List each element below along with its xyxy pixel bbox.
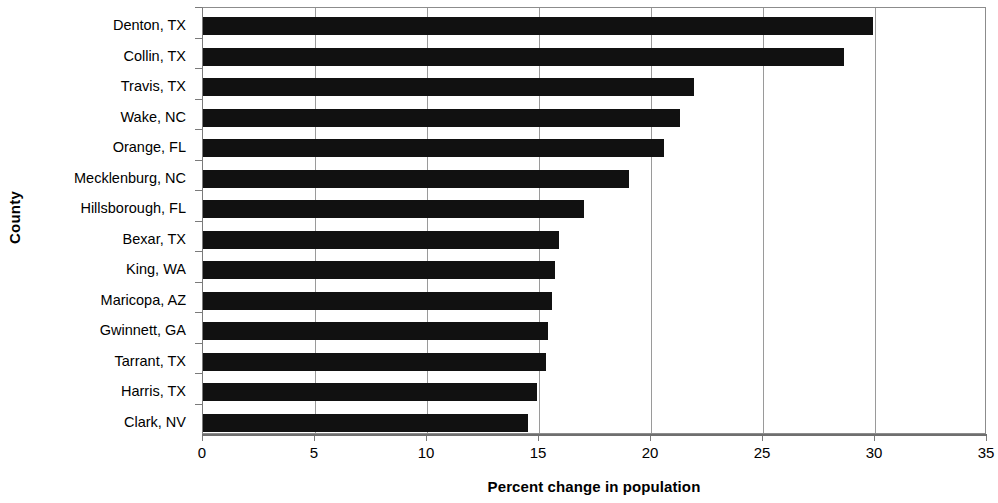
category-label: Harris, TX: [121, 381, 186, 401]
x-axis-title: Percent change in population: [202, 478, 986, 495]
bar: [203, 109, 680, 127]
category-label: Collin, TX: [123, 46, 186, 66]
plot-area: [202, 7, 986, 434]
y-axis-title: County: [0, 0, 28, 434]
category-label: Hillsborough, FL: [80, 198, 186, 218]
category-label: Tarrant, TX: [115, 351, 186, 371]
y-axis-title-text: County: [6, 191, 23, 244]
bar: [203, 383, 537, 401]
bar: [203, 261, 555, 279]
bar: [203, 414, 528, 432]
category-label: Orange, FL: [113, 137, 186, 157]
category-label: Mecklenburg, NC: [74, 168, 186, 188]
y-axis-tick: [195, 343, 202, 344]
bar-chart: County Denton, TXCollin, TXTravis, TXWak…: [0, 0, 998, 503]
category-label: Clark, NV: [124, 412, 186, 432]
bar: [203, 17, 873, 35]
gridline-x-20: [651, 8, 652, 433]
bar: [203, 48, 844, 66]
x-axis-tick-label: 0: [180, 444, 224, 461]
category-label: Maricopa, AZ: [101, 290, 186, 310]
y-axis-tick: [195, 68, 202, 69]
bar: [203, 139, 664, 157]
bar: [203, 353, 546, 371]
x-axis-tick-label: 15: [516, 444, 560, 461]
category-label: Bexar, TX: [123, 229, 186, 249]
y-axis-tick: [195, 7, 202, 8]
y-axis-tick: [195, 282, 202, 283]
y-axis-tick: [195, 99, 202, 100]
y-axis-tick: [195, 404, 202, 405]
category-label: Denton, TX: [113, 15, 186, 35]
bar: [203, 292, 552, 310]
x-axis-line: [202, 434, 987, 436]
x-axis-tick-label: 20: [628, 444, 672, 461]
gridline-x-30: [875, 8, 876, 433]
category-label: Travis, TX: [121, 76, 186, 96]
category-label: King, WA: [126, 259, 186, 279]
y-axis-tick: [195, 129, 202, 130]
y-axis-tick: [195, 221, 202, 222]
bar: [203, 200, 584, 218]
y-axis-tick: [195, 251, 202, 252]
bar: [203, 231, 559, 249]
category-label: Wake, NC: [120, 107, 186, 127]
category-label: Gwinnett, GA: [100, 320, 186, 340]
y-axis-tick: [195, 190, 202, 191]
y-axis-tick: [195, 373, 202, 374]
x-axis-tick-label: 35: [964, 444, 998, 461]
y-axis-tick: [195, 312, 202, 313]
x-axis-tick-label: 25: [740, 444, 784, 461]
bar: [203, 78, 694, 96]
y-axis-tick: [195, 160, 202, 161]
x-axis-tick-label: 5: [292, 444, 336, 461]
x-axis-tick-label: 10: [404, 444, 448, 461]
bar: [203, 322, 548, 340]
bar: [203, 170, 629, 188]
category-labels: Denton, TXCollin, TXTravis, TXWake, NCOr…: [28, 7, 194, 434]
y-axis-tick: [195, 38, 202, 39]
gridline-x-25: [763, 8, 764, 433]
x-axis-tick-label: 30: [852, 444, 896, 461]
